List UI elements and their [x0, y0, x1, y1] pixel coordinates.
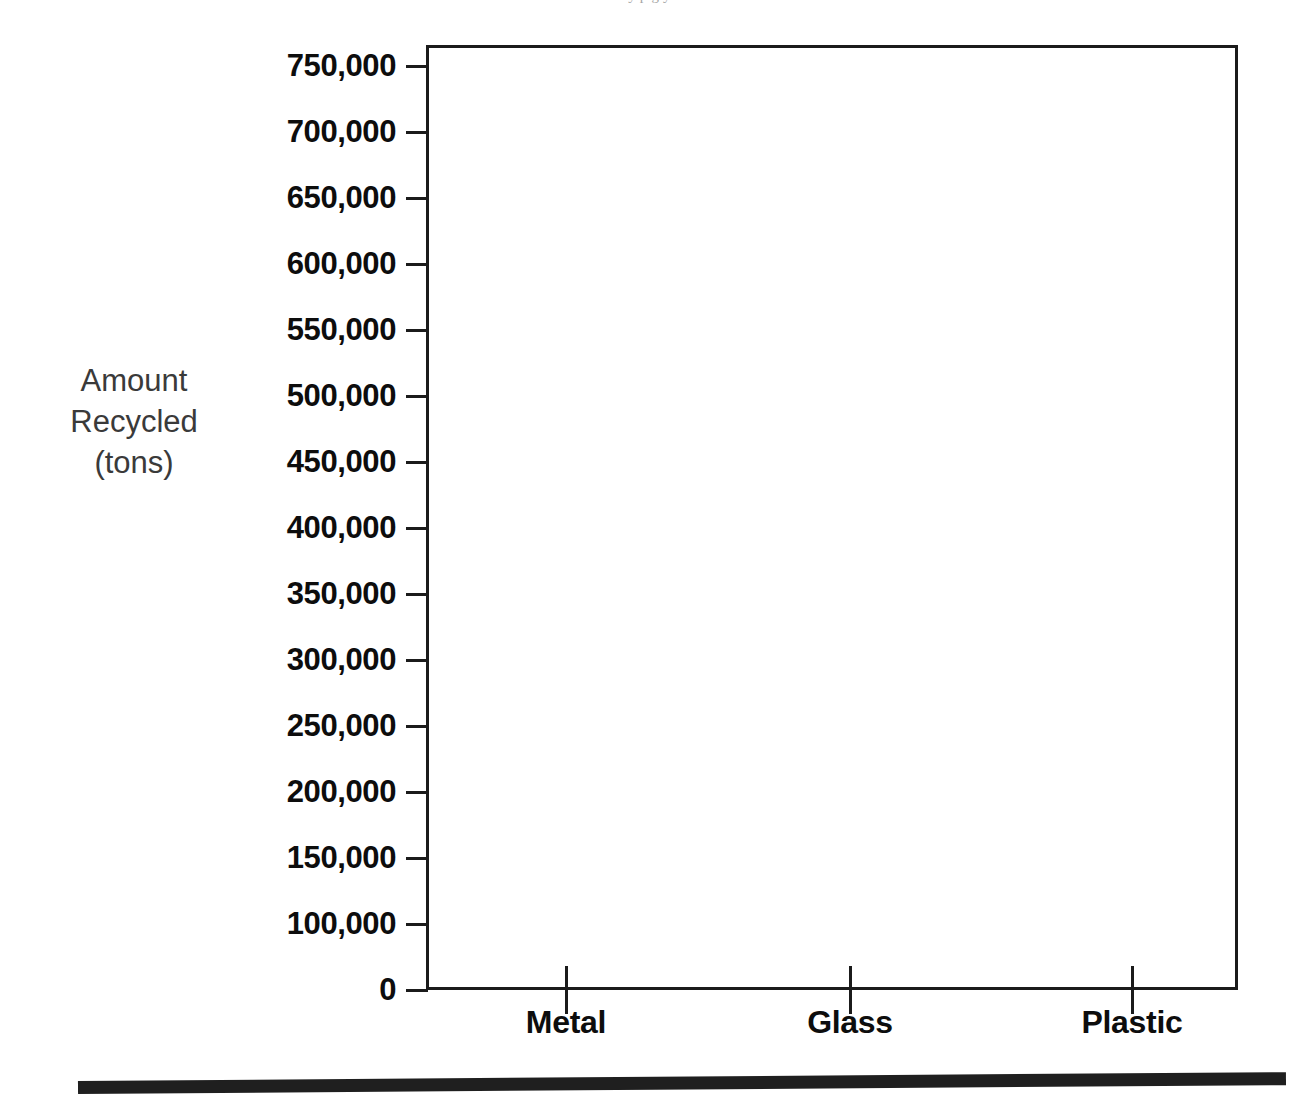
- y-axis-tick-label: 400,000: [236, 507, 396, 549]
- y-axis-tick-mark: [406, 65, 428, 68]
- y-axis-tick-mark: [406, 791, 428, 794]
- y-axis-tick-mark: [406, 329, 428, 332]
- x-axis-label-metal: Metal: [436, 1004, 696, 1041]
- y-axis-tick-label: 300,000: [236, 639, 396, 681]
- y-axis-tick-label: 150,000: [236, 837, 396, 879]
- y-axis-tick-label: 200,000: [236, 771, 396, 813]
- y-axis-label: Amount Recycled (tons): [20, 360, 248, 483]
- y-axis-tick-label: 500,000: [236, 375, 396, 417]
- y-axis-tick-label: 350,000: [236, 573, 396, 615]
- y-axis-tick-mark: [406, 131, 428, 134]
- y-axis-tick-mark: [406, 593, 428, 596]
- y-axis-tick-label: 600,000: [236, 243, 396, 285]
- y-axis-label-line-3: (tons): [20, 442, 248, 483]
- y-axis-tick-mark: [406, 725, 428, 728]
- y-axis-tick-label: 750,000: [236, 45, 396, 87]
- y-axis-label-line-2: Recycled: [20, 401, 248, 442]
- y-axis-tick-label: 450,000: [236, 441, 396, 483]
- plot-area[interactable]: [426, 45, 1238, 990]
- y-axis-tick-mark: [406, 197, 428, 200]
- y-axis-tick-mark: [406, 461, 428, 464]
- y-axis-tick-mark: [406, 659, 428, 662]
- y-axis-tick-mark: [406, 263, 428, 266]
- x-axis-label-glass: Glass: [720, 1004, 980, 1041]
- y-axis-tick-label: 0: [236, 969, 396, 1011]
- bar-graph-worksheet: Amount Recycled (tons) 750,000 700,000 6…: [0, 0, 1299, 1112]
- y-axis-tick-mark: [406, 923, 428, 926]
- y-axis-tick-label: 700,000: [236, 111, 396, 153]
- y-axis-tick-label: 100,000: [236, 903, 396, 945]
- y-axis-tick-label: 250,000: [236, 705, 396, 747]
- y-axis-tick-mark: [406, 527, 428, 530]
- y-axis-tick-mark: [406, 989, 428, 992]
- x-axis-label-plastic: Plastic: [1002, 1004, 1262, 1041]
- y-axis-tick-mark: [406, 857, 428, 860]
- y-axis-tick-label: 650,000: [236, 177, 396, 219]
- y-axis-label-line-1: Amount: [20, 360, 248, 401]
- y-axis-tick-mark: [406, 395, 428, 398]
- y-axis-tick-label: 550,000: [236, 309, 396, 351]
